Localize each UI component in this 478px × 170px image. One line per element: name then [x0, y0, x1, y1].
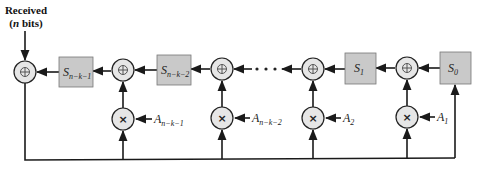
received-input-label: Received (n bits)	[5, 4, 47, 30]
xor-gate-4	[396, 57, 418, 79]
multiply-icon: ×	[118, 113, 127, 126]
coefficient-a-n-k-1: An−k−1	[153, 112, 184, 128]
register-s-n-k-1: Sn−k−1	[59, 57, 93, 87]
n-bits-label: (n bits)	[9, 17, 43, 30]
ellipsis	[255, 67, 276, 70]
multiply-icon: ×	[308, 112, 317, 125]
syndrome-calculator-diagram: Received (n bits)	[0, 0, 478, 170]
multiplier-4: ×	[396, 106, 418, 128]
coefficient-a-n-k-2: An−k−2	[251, 111, 282, 127]
coefficient-a-2: A2	[342, 111, 354, 127]
xor-gate-2	[211, 58, 233, 80]
xor-gate-1	[112, 59, 134, 81]
register-s-n-k-2: Sn−k−2	[157, 55, 191, 85]
xor-gate-0	[14, 61, 36, 83]
xor-gate-3	[302, 58, 324, 80]
received-label: Received	[5, 4, 47, 16]
register-s-1: S1	[345, 53, 376, 84]
multiplier-2: ×	[211, 107, 233, 129]
coefficient-a-1: A1	[436, 110, 448, 126]
register-s-0: S0	[440, 52, 471, 84]
feedback-bus	[25, 82, 455, 160]
multiply-icon: ×	[402, 111, 411, 124]
multiply-icon: ×	[217, 112, 226, 125]
multiplier-3: ×	[302, 107, 324, 129]
multiplier-1: ×	[112, 108, 134, 130]
